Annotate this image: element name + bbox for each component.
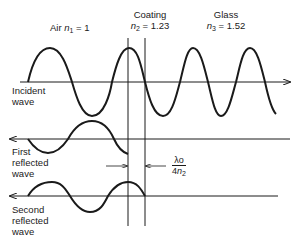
- coating-label: Coating n2 = 1.23: [120, 9, 180, 31]
- quarter-wave-thickness-label: λo 4n2: [172, 155, 186, 176]
- second-reflected-wave-label: Second reflected wave: [12, 204, 48, 237]
- first-reflected-wave-label: First reflected wave: [12, 146, 48, 179]
- glass-label: Glass n3 = 1.52: [196, 9, 256, 31]
- air-label: Air n1 = 1: [50, 22, 90, 33]
- incident-wave-label: Incident wave: [12, 85, 45, 107]
